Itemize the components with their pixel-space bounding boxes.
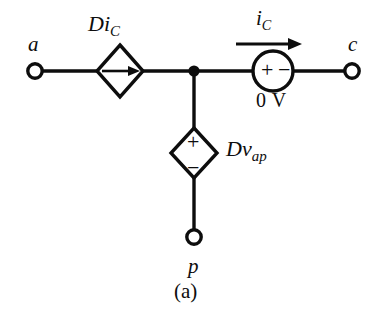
dependent-voltage-source-label-sub: ap (252, 148, 267, 164)
terminal-c-circle[interactable] (345, 64, 359, 78)
dependent-current-source-label: DiC (88, 13, 120, 39)
zero-volt-source-plus-sign: + (261, 59, 273, 81)
junction-node-dot (188, 65, 199, 76)
dependent-current-source-label-sub: C (110, 23, 120, 39)
dependent-voltage-source-minus-sign: − (187, 157, 199, 179)
terminal-p-label: p (188, 256, 199, 277)
figure-caption: (a) (174, 281, 197, 302)
terminal-c-label: c (348, 34, 357, 55)
dependent-current-source-label-main: Di (88, 11, 110, 36)
terminal-p-circle[interactable] (187, 230, 201, 244)
terminal-a-circle[interactable] (28, 64, 42, 78)
current-annotation-label-sub: C (262, 17, 272, 33)
terminal-a-label: a (28, 34, 39, 55)
current-direction-arrow-icon (236, 38, 302, 50)
current-annotation-label: iC (256, 8, 271, 32)
circuit-figure: a c p DiC Dvap iC + − 0 V + − (a) (0, 0, 383, 314)
dependent-voltage-source-plus-sign: + (187, 131, 199, 153)
zero-volt-source-minus-sign: − (278, 59, 290, 81)
dependent-voltage-source-label: Dvap (226, 138, 267, 164)
dependent-voltage-source-label-main: Dv (226, 136, 252, 161)
zero-volt-source-value-label: 0 V (256, 90, 287, 110)
